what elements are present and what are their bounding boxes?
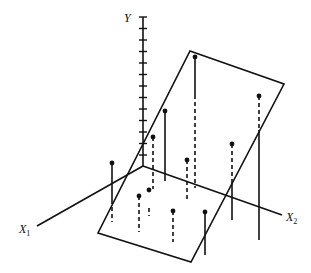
x2-axis-label: X2 xyxy=(285,210,297,226)
data-points xyxy=(110,55,262,255)
data-point-A xyxy=(193,55,198,188)
data-point-B xyxy=(257,94,262,240)
point-dot xyxy=(163,109,168,114)
point-dot xyxy=(193,55,198,60)
x1-axis-label: X1 xyxy=(18,222,30,238)
data-point-I xyxy=(147,188,152,216)
point-dot xyxy=(257,94,262,99)
point-dot xyxy=(203,210,208,215)
data-point-C xyxy=(163,109,168,181)
point-dot xyxy=(137,194,142,199)
data-point-D xyxy=(151,135,156,189)
data-point-E xyxy=(185,158,190,200)
point-dot xyxy=(110,161,115,166)
x1-axis-line xyxy=(37,166,143,226)
data-point-H xyxy=(137,194,142,232)
point-dot xyxy=(147,188,152,193)
axis-labels: Y X1 X2 xyxy=(18,11,297,238)
diagram-canvas: Y X1 X2 xyxy=(0,0,311,273)
regression-plane-diagram: Y X1 X2 xyxy=(0,0,311,273)
data-point-J xyxy=(171,209,176,242)
data-point-G xyxy=(110,161,115,222)
regression-plane xyxy=(98,51,284,262)
point-dot xyxy=(185,158,190,163)
plane-outline xyxy=(98,51,284,262)
point-dot xyxy=(171,209,176,214)
point-dot xyxy=(230,142,235,147)
axes xyxy=(37,17,282,226)
point-dot xyxy=(151,135,156,140)
y-axis-label: Y xyxy=(124,11,132,25)
x2-axis-line xyxy=(143,166,282,215)
